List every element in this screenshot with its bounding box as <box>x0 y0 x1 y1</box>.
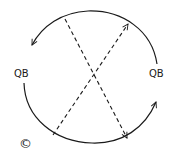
copyright-icon: © <box>19 137 32 150</box>
bottom-arc <box>24 83 156 143</box>
qb-right-label: QB <box>149 69 164 79</box>
top-arc <box>32 11 157 64</box>
diagonal-down-dashed-arrow <box>65 19 127 138</box>
qb-left-label: QB <box>14 69 29 79</box>
